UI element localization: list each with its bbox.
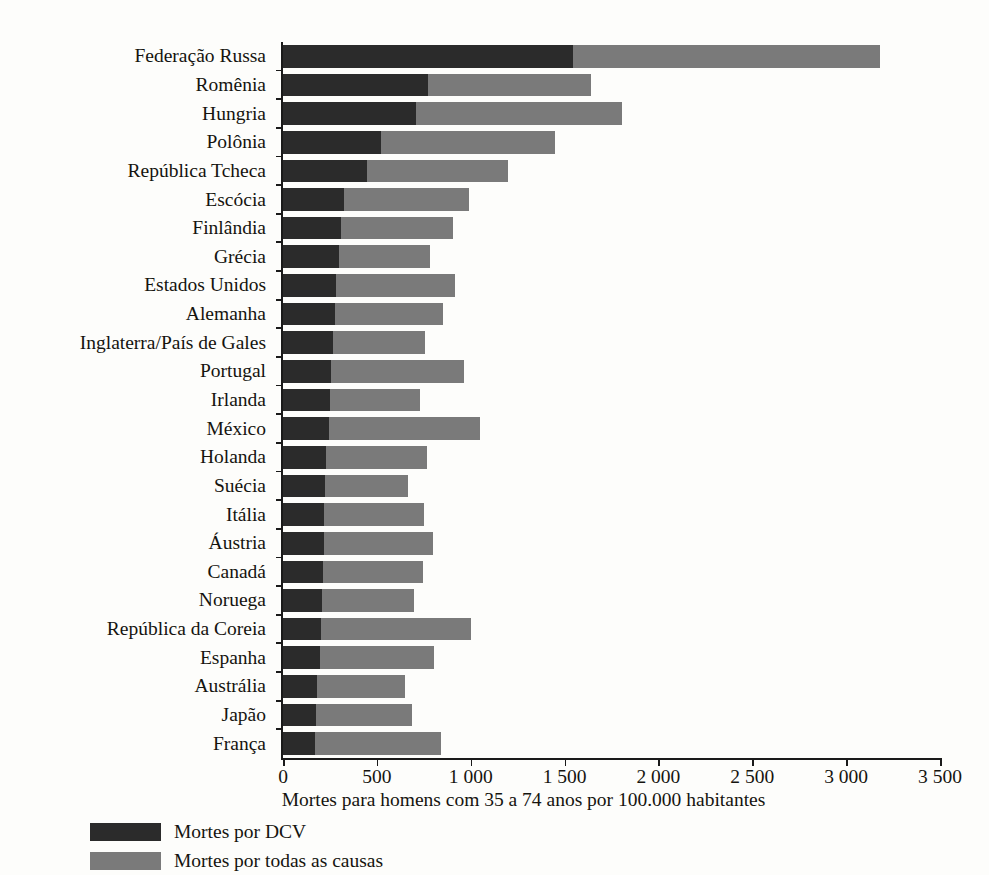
bar-segment-dcv	[283, 188, 344, 211]
y-axis-tick	[276, 98, 283, 100]
bar-row	[283, 646, 434, 669]
bar-segment-dcv	[283, 389, 330, 412]
bar-segment-dcv	[283, 646, 320, 669]
bar-row	[283, 131, 555, 154]
y-axis-tick	[276, 213, 283, 215]
bar-segment-all-causes	[336, 274, 454, 297]
bar-row	[283, 532, 433, 555]
category-label: República Tcheca	[128, 160, 267, 182]
bar-segment-dcv	[283, 704, 316, 727]
bar-segment-dcv	[283, 245, 339, 268]
x-axis-tick-label: 500	[362, 765, 391, 789]
category-label: França	[213, 733, 266, 755]
x-axis-title: Mortes para homens com 35 a 74 anos por …	[0, 789, 989, 811]
bar-segment-dcv	[283, 331, 333, 354]
category-label: Austrália	[195, 675, 266, 697]
bar-segment-dcv	[283, 561, 323, 584]
y-axis-tick	[276, 528, 283, 530]
category-label: Alemanha	[186, 303, 266, 325]
category-label: Holanda	[200, 446, 266, 468]
y-axis-tick	[276, 413, 283, 415]
bar-row	[283, 303, 443, 326]
bar-segment-all-causes	[331, 360, 464, 383]
bar-segment-all-causes	[322, 589, 414, 612]
category-label: Hungria	[202, 103, 266, 125]
bar-row	[283, 561, 423, 584]
bar-segment-all-causes	[573, 45, 880, 68]
bar-segment-dcv	[283, 675, 317, 698]
bar-segment-dcv	[283, 532, 324, 555]
bar-segment-dcv	[283, 217, 341, 240]
legend-swatch-dcv	[90, 823, 161, 841]
bar-segment-all-causes	[428, 74, 591, 97]
bar-segment-all-causes	[316, 704, 412, 727]
y-axis-tick	[276, 585, 283, 587]
bar-segment-all-causes	[324, 503, 423, 526]
x-axis-tick-label: 3 500	[918, 765, 962, 789]
bar-row	[283, 446, 427, 469]
legend-swatch-all-causes	[90, 852, 161, 870]
x-axis-line	[283, 758, 941, 760]
bar-segment-all-causes	[330, 389, 420, 412]
chart-legend: Mortes por DCV Mortes por todas as causa…	[90, 818, 383, 875]
bar-segment-all-causes	[321, 618, 470, 641]
bar-segment-all-causes	[416, 102, 622, 125]
category-label: Finlândia	[192, 217, 266, 239]
y-axis-tick	[276, 327, 283, 329]
bar-segment-dcv	[283, 102, 416, 125]
bar-row	[283, 217, 453, 240]
category-label: Itália	[226, 504, 266, 526]
y-axis-tick	[276, 241, 283, 243]
x-axis-tick-label: 2 500	[730, 765, 774, 789]
bar-row	[283, 675, 405, 698]
bar-row	[283, 45, 880, 68]
category-label: Áustria	[209, 532, 266, 554]
plot-area	[283, 42, 940, 758]
bar-segment-all-causes	[333, 331, 425, 354]
bar-segment-dcv	[283, 446, 326, 469]
bar-row	[283, 245, 430, 268]
bar-row	[283, 618, 471, 641]
category-label: Suécia	[214, 475, 266, 497]
x-axis-tick-label: 0	[278, 765, 288, 789]
y-axis-tick	[276, 642, 283, 644]
bar-segment-dcv	[283, 732, 315, 755]
category-label: Noruega	[199, 589, 266, 611]
bar-segment-dcv	[283, 618, 321, 641]
y-axis-tick	[276, 299, 283, 301]
bar-row	[283, 331, 425, 354]
legend-item-dcv: Mortes por DCV	[90, 818, 383, 846]
category-label: Irlanda	[211, 389, 266, 411]
legend-item-all-causes: Mortes por todas as causas	[90, 847, 383, 875]
y-axis-tick	[276, 700, 283, 702]
bar-segment-all-causes	[341, 217, 453, 240]
bar-segment-all-causes	[329, 417, 480, 440]
bar-segment-dcv	[283, 160, 367, 183]
x-axis-tick-label: 1 000	[449, 765, 493, 789]
category-label: Espanha	[200, 647, 266, 669]
bar-segment-dcv	[283, 45, 573, 68]
category-label: Romênia	[196, 74, 266, 96]
bar-row	[283, 704, 412, 727]
category-label: Grécia	[214, 246, 266, 268]
y-axis-tick	[276, 442, 283, 444]
bar-segment-all-causes	[324, 532, 433, 555]
x-axis-tick-label: 1 500	[543, 765, 587, 789]
bar-segment-all-causes	[320, 646, 435, 669]
legend-label-all-causes: Mortes por todas as causas	[174, 850, 383, 872]
category-label: Portugal	[200, 360, 266, 382]
y-axis-tick	[276, 270, 283, 272]
bar-segment-all-causes	[335, 303, 444, 326]
bar-row	[283, 503, 424, 526]
y-axis-tick	[276, 614, 283, 616]
y-axis-tick	[276, 70, 283, 72]
category-label: República da Coreia	[107, 618, 266, 640]
y-axis-tick	[276, 385, 283, 387]
y-axis-tick	[276, 499, 283, 501]
y-axis-tick	[276, 127, 283, 129]
bar-row	[283, 732, 441, 755]
legend-label-dcv: Mortes por DCV	[174, 821, 306, 843]
category-label: Canadá	[208, 561, 266, 583]
y-axis-tick	[276, 471, 283, 473]
bar-row	[283, 102, 622, 125]
